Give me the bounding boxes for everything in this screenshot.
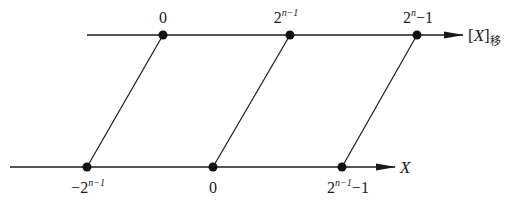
mapping-line-2 bbox=[213, 35, 290, 167]
bottom-point-label-1: 0 bbox=[209, 179, 217, 196]
mapping-lines bbox=[87, 35, 417, 167]
shift-code-mapping-diagram: [X]移 0 2n−1 2n−1 X −2n−1 0 2n−1−1 bbox=[0, 0, 513, 208]
bottom-axis: X −2n−1 0 2n−1−1 bbox=[10, 158, 411, 196]
mapping-line-3 bbox=[342, 35, 417, 167]
top-point-label-2: 2n−1 bbox=[403, 7, 433, 26]
top-axis: [X]移 0 2n−1 2n−1 bbox=[87, 7, 501, 47]
top-axis-label: [X]移 bbox=[468, 26, 501, 47]
bottom-axis-label: X bbox=[399, 158, 411, 177]
mapping-line-1 bbox=[87, 35, 163, 167]
bottom-point-label-2: 2n−1−1 bbox=[327, 177, 369, 196]
top-point-label-1: 2n−1 bbox=[274, 7, 299, 26]
bottom-point-label-0: −2n−1 bbox=[71, 177, 105, 196]
top-point-label-0: 0 bbox=[159, 9, 167, 26]
